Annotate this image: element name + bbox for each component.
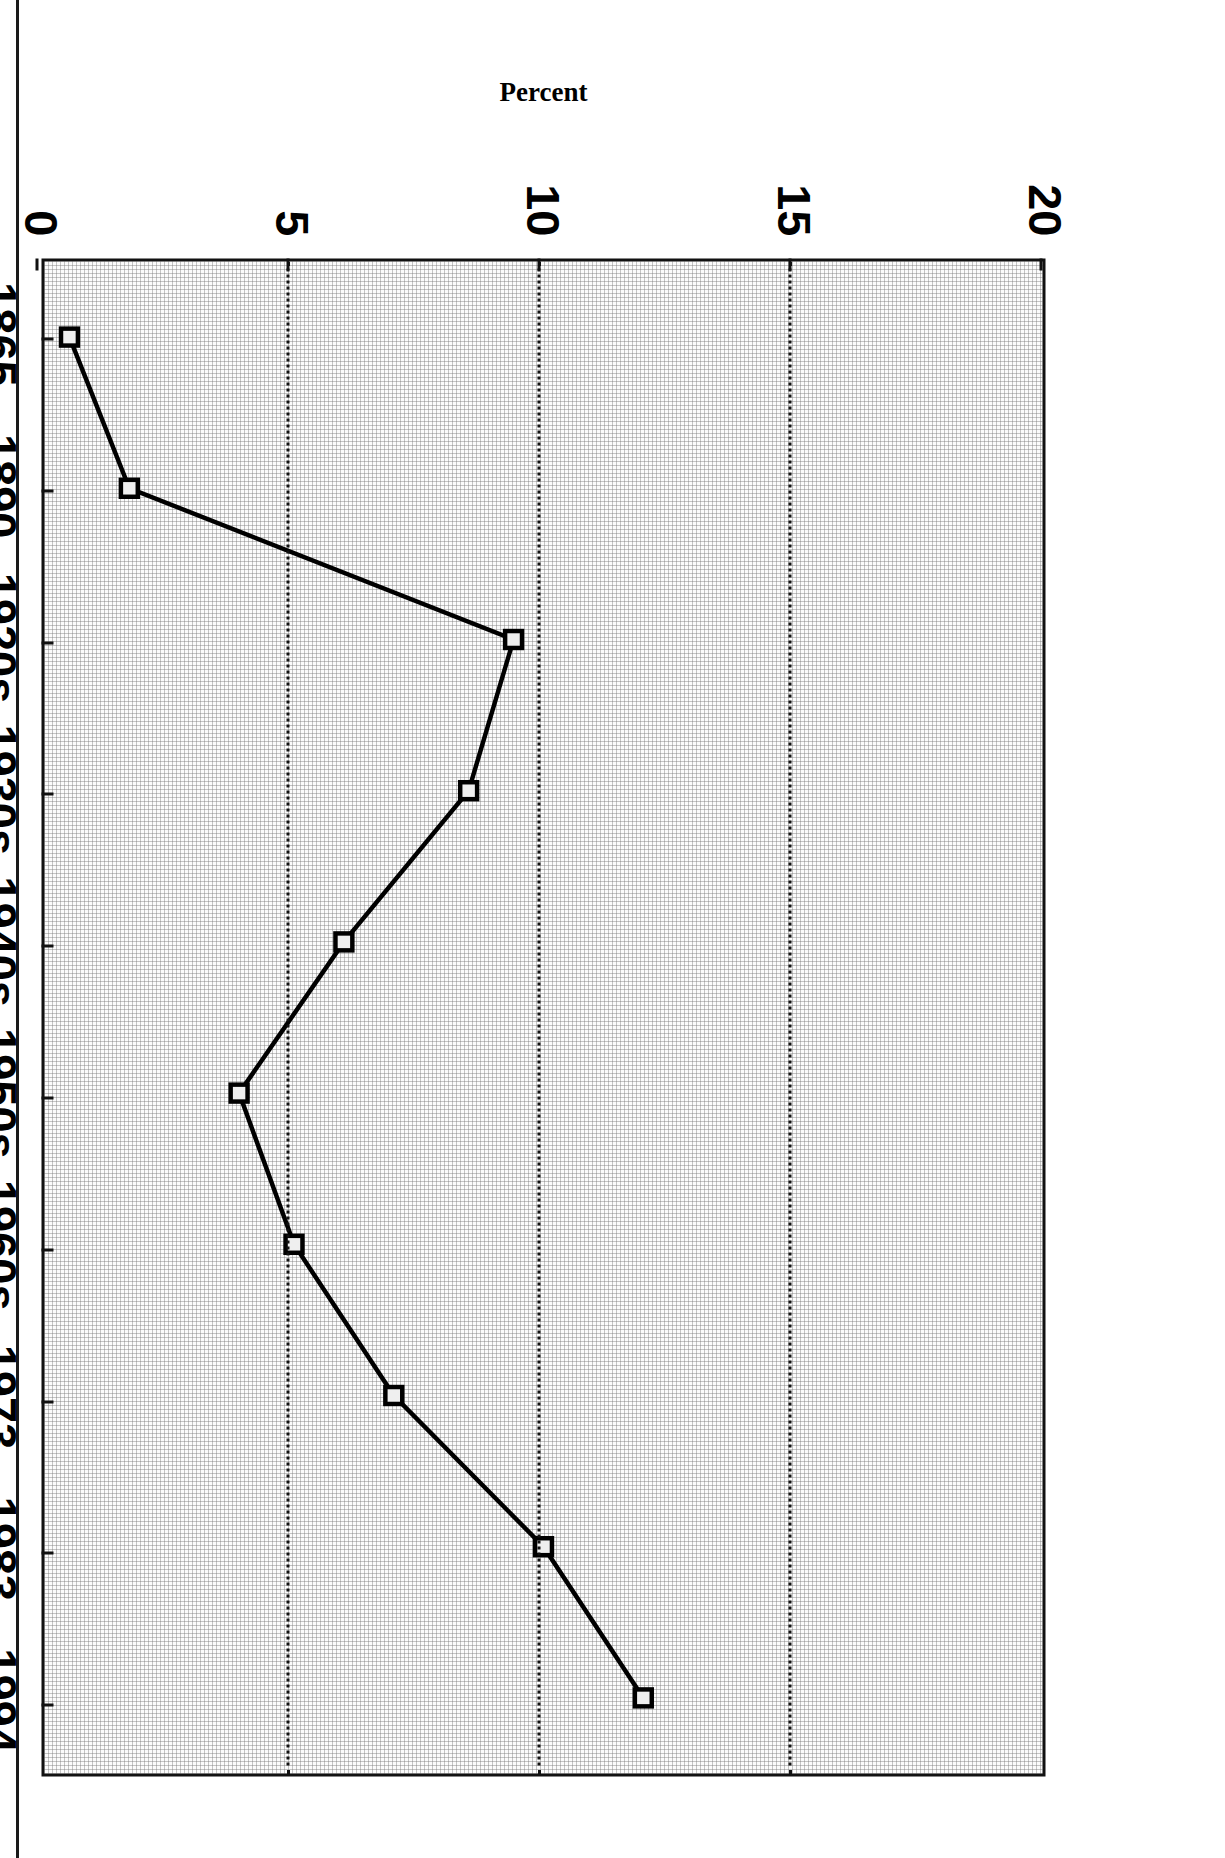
x-axis-label-1960s: 1960s <box>0 1179 27 1310</box>
x-tick-1890 <box>41 489 53 492</box>
x-axis-label-1865: 1865 <box>0 282 27 387</box>
x-axis-label-1940s: 1940s <box>0 876 27 1007</box>
x-tick-1994 <box>41 1703 53 1706</box>
data-point-1930s <box>460 782 477 799</box>
x-tick-1973 <box>41 1400 53 1403</box>
plot-area <box>41 258 1045 1776</box>
x-tick-1983 <box>41 1551 53 1554</box>
y-tick-0 <box>35 258 38 270</box>
y-axis-label-5: 5 <box>265 210 320 236</box>
chart-page: Percent 05101520186518901920s1930s1940s1… <box>0 0 1225 1858</box>
y-tick-15 <box>788 258 791 270</box>
figure: Percent 05101520186518901920s1930s1940s1… <box>0 0 1225 1858</box>
data-point-1950s <box>230 1084 247 1101</box>
x-tick-1940s <box>41 944 53 947</box>
x-tick-1865 <box>41 337 53 340</box>
x-tick-1960s <box>41 1248 53 1251</box>
x-axis-label-1973: 1973 <box>0 1344 27 1449</box>
gridline-y-15 <box>788 261 791 1773</box>
y-tick-10 <box>537 258 540 270</box>
x-axis-label-1890: 1890 <box>0 433 27 538</box>
x-tick-1950s <box>41 1096 53 1099</box>
x-axis-label-1930s: 1930s <box>0 724 27 855</box>
x-tick-1920s <box>41 641 53 644</box>
x-tick-1930s <box>41 792 53 795</box>
series-line-chart <box>44 261 1042 1773</box>
x-axis-label-1983: 1983 <box>0 1496 27 1601</box>
data-point-1940s <box>335 933 352 950</box>
y-tick-5 <box>286 258 289 270</box>
data-point-1890 <box>120 479 137 496</box>
y-tick-20 <box>1039 258 1042 270</box>
series-polyline <box>69 337 643 1698</box>
y-axis-label-0: 0 <box>14 210 69 236</box>
gridline-y-10 <box>537 261 540 1773</box>
rotated-figure-wrapper: Percent 05101520186518901920s1930s1940s1… <box>0 0 1225 1858</box>
y-axis-label-10: 10 <box>516 184 571 236</box>
data-point-1920s <box>505 631 522 648</box>
x-axis-label-1920s: 1920s <box>0 572 27 703</box>
y-axis-label-15: 15 <box>767 184 822 236</box>
y-axis-title: Percent <box>499 77 587 108</box>
data-point-1865 <box>61 328 78 345</box>
data-point-1994 <box>634 1689 651 1706</box>
data-point-1973 <box>385 1387 402 1404</box>
gridline-y-5 <box>286 261 289 1773</box>
x-axis-label-1994: 1994 <box>0 1648 27 1753</box>
x-axis-label-1950s: 1950s <box>0 1028 27 1159</box>
y-axis-label-20: 20 <box>1018 184 1073 236</box>
